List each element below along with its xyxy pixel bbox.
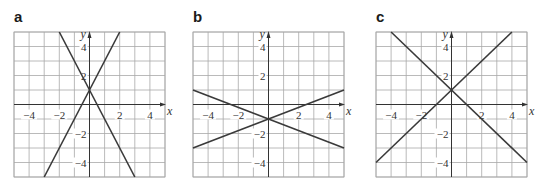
y-axis-label: y <box>442 27 449 41</box>
x-axis-label: x <box>345 104 352 118</box>
graph-b: xy−4−22442−2−4 <box>191 0 362 193</box>
graph-c: xy−4−22442−2−4 <box>374 0 538 193</box>
x-axis-label: x <box>166 104 173 118</box>
y-axis-label: y <box>259 27 266 41</box>
y-tick-label: 4 <box>81 41 87 53</box>
x-tick-label: 4 <box>147 109 153 121</box>
plot-line-2 <box>391 32 527 163</box>
x-tick-label: 2 <box>117 109 123 121</box>
x-tick-label: −4 <box>385 109 397 121</box>
y-tick-label: 4 <box>443 41 449 53</box>
x-tick-label: −2 <box>232 109 244 121</box>
x-tick-label: 2 <box>296 109 302 121</box>
x-tick-label: 4 <box>326 109 332 121</box>
x-tick-label: 4 <box>509 109 515 121</box>
y-tick-label: −2 <box>75 128 87 140</box>
x-tick-label: −4 <box>202 109 214 121</box>
graph-a: xy−4−22442−2−4 <box>12 0 183 193</box>
y-tick-label: −2 <box>437 128 449 140</box>
y-axis-label: y <box>80 27 87 41</box>
y-tick-label: −2 <box>254 128 266 140</box>
y-tick-label: 2 <box>260 70 266 82</box>
y-tick-label: 4 <box>260 41 266 53</box>
x-tick-label: −4 <box>23 109 35 121</box>
x-axis-label: x <box>528 104 535 118</box>
y-tick-label: 2 <box>443 70 449 82</box>
x-tick-label: −2 <box>53 109 65 121</box>
y-tick-label: −4 <box>437 157 449 169</box>
y-tick-label: −4 <box>75 157 87 169</box>
y-tick-label: −4 <box>254 157 266 169</box>
